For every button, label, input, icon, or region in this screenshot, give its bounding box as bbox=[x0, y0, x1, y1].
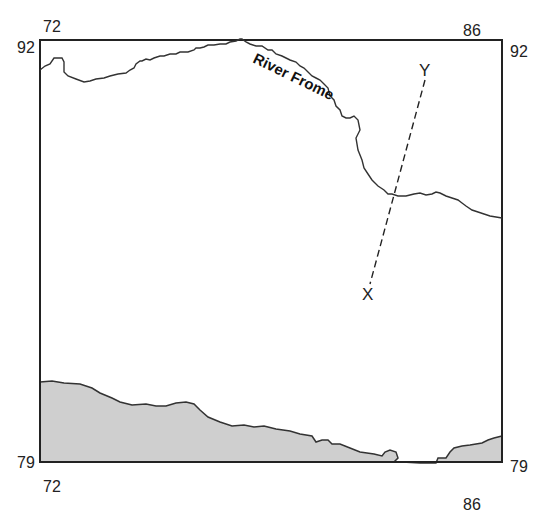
map-canvas: River Frome Y X bbox=[0, 0, 550, 529]
transect-label-y: Y bbox=[419, 61, 430, 80]
river-name-label: River Frome bbox=[251, 49, 337, 103]
transect-label-x: X bbox=[362, 285, 373, 304]
transect-line bbox=[370, 80, 425, 284]
sea-area bbox=[40, 381, 502, 463]
